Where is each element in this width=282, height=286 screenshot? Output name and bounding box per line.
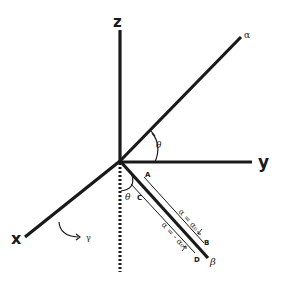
x-axis [25,161,120,237]
x-axis-label: x [11,229,22,248]
gamma-rotation-arrow [59,222,78,237]
y-axis-label: y [258,152,269,172]
z-axis-label: z [113,13,122,31]
beta-ray [120,161,208,258]
equation-lower: α = - α₀ [160,220,188,249]
beta-label: β [209,256,216,267]
point-b-label: B [204,239,209,247]
coordinate-diagram: z y α x β θ θ γ A B C D α = α₀ α = - α₀ [0,0,282,286]
theta-lower-arc [121,175,133,191]
theta-upper-label: θ [156,140,162,150]
gamma-label: γ [86,233,91,242]
alpha-ray [120,37,241,161]
arrow-upper-icon [198,229,202,234]
point-c-label: C [137,194,142,202]
point-d-label: D [194,256,200,264]
point-a-label: A [145,171,151,179]
alpha-label: α [244,30,250,40]
theta-lower-label: θ [125,192,131,202]
